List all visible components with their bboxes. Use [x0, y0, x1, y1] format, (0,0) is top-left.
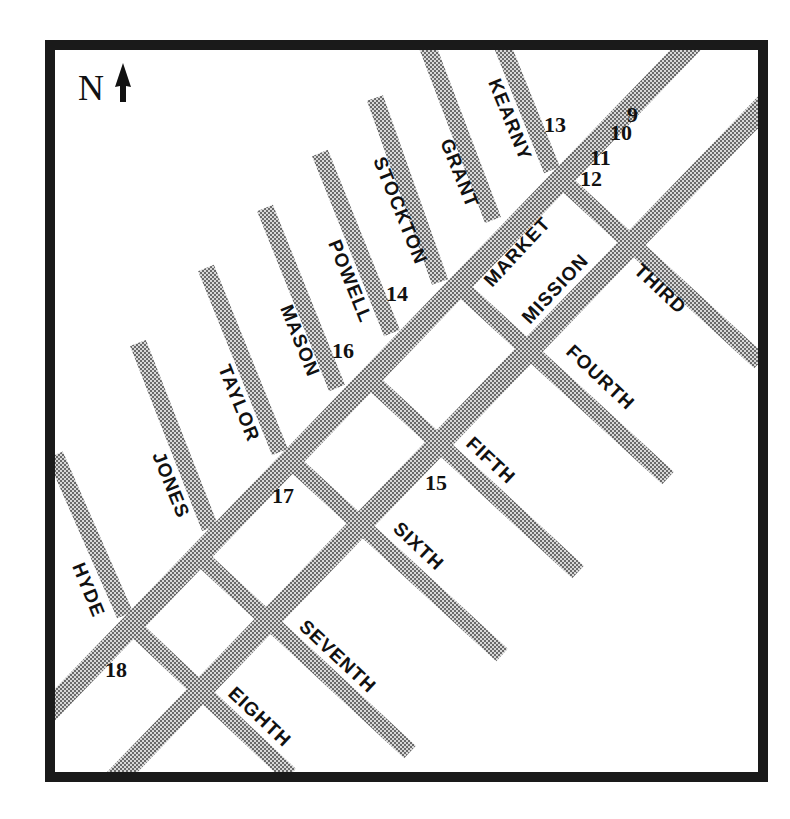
north-label: N — [78, 68, 104, 108]
location-13: 13 — [544, 112, 566, 137]
location-14: 14 — [386, 281, 408, 306]
location-12: 12 — [580, 166, 602, 191]
location-17: 17 — [272, 483, 294, 508]
location-18: 18 — [105, 657, 127, 682]
location-10: 10 — [610, 120, 632, 145]
location-15: 15 — [425, 470, 447, 495]
street-map: N MARKET MISSION KEARNY GRANT STOCKTON P… — [0, 0, 790, 819]
location-16: 16 — [332, 338, 354, 363]
